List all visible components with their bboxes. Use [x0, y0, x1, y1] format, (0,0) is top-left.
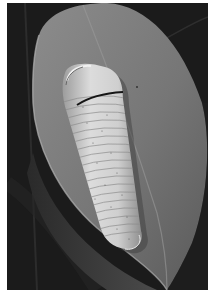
caterpillar-on-leaf-image [7, 3, 208, 290]
photograph [7, 3, 208, 290]
